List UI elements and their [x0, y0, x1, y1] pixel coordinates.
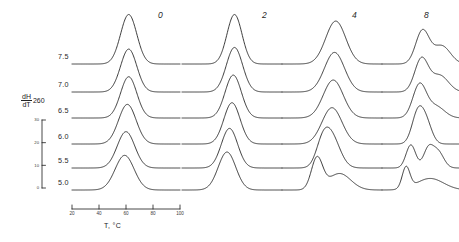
melting-curve-trace [382, 57, 459, 92]
x-axis-tick-label: 40 [92, 211, 106, 216]
column-header: 4 [352, 10, 357, 20]
row-label-ph: 6.0 [58, 132, 69, 141]
column-header: 2 [262, 10, 267, 20]
melting-curve-trace [282, 127, 382, 168]
row-label-ph: 5.5 [58, 156, 69, 165]
melting-curve-trace [182, 15, 282, 64]
row-label-ph: 5.0 [58, 178, 69, 187]
row-label-ph: 6.5 [58, 106, 69, 115]
melting-curve-trace [72, 49, 180, 92]
melting-curve-trace [382, 144, 459, 168]
melting-curve-trace [382, 83, 459, 118]
figure-canvas [0, 0, 459, 242]
x-axis-tick-label: 80 [146, 211, 160, 216]
row-label-ph: 7.5 [58, 52, 69, 61]
y-axis-tick-label: 20 [26, 140, 39, 145]
melting-curve-trace [72, 15, 180, 64]
row-label-ph: 7.0 [58, 80, 69, 89]
melting-curve-trace [382, 166, 459, 190]
melting-curve-trace [72, 77, 180, 118]
melting-curve-trace [182, 128, 282, 168]
melting-curve-trace [182, 47, 282, 92]
column-header: 8 [424, 10, 429, 20]
y-axis-tick-label: 0 [26, 185, 39, 190]
melting-curve-trace [72, 132, 180, 168]
melting-curve-trace [282, 52, 382, 92]
melting-curve-trace [72, 155, 180, 190]
x-axis-tick-label: 100 [173, 211, 187, 216]
column-header: 0 [158, 10, 163, 20]
melting-curve-trace [382, 106, 459, 144]
melting-curve-trace [182, 152, 282, 190]
x-axis-tick-label: 20 [65, 211, 79, 216]
melting-curve-trace [72, 104, 180, 144]
melting-curve-trace [282, 80, 382, 118]
melting-curve-trace [282, 156, 382, 190]
melting-curve-trace [182, 75, 282, 118]
melting-curve-trace [282, 21, 382, 64]
melting-curve-figure: dH dT 260 T, °C 02487.57.06.56.05.55.030… [0, 0, 459, 242]
y-axis-tick-label: 10 [26, 163, 39, 168]
melting-curve-trace [282, 108, 382, 144]
melting-curve-trace [382, 29, 459, 64]
x-axis-tick-label: 60 [119, 211, 133, 216]
y-axis-tick-label: 30 [26, 117, 39, 122]
melting-curve-trace [182, 103, 282, 144]
